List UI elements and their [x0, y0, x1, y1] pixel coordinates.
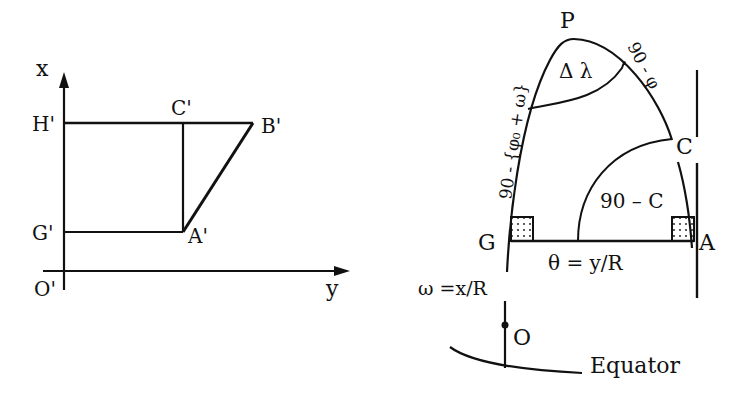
- origin-label: O': [34, 277, 56, 301]
- point-c-prime-label: C': [171, 96, 192, 120]
- right-angle-marker-a: [672, 217, 694, 241]
- angle-label: 90 – C: [600, 189, 663, 213]
- right-side-label: 90 - φ: [623, 38, 664, 92]
- plane-coordinate-figure: x y O' H' C' B' G' A': [32, 56, 350, 301]
- point-o-label: O: [513, 325, 531, 350]
- x-axis-label: x: [36, 56, 49, 81]
- theta-label: θ = y/R: [548, 251, 624, 275]
- diagram-canvas: x y O' H' C' B' G' A' P Δ λ 90 - {φ₀: [0, 0, 745, 401]
- point-b-prime-label: B': [261, 114, 281, 138]
- point-o-dot: [502, 322, 509, 329]
- equator-label: Equator: [590, 353, 681, 378]
- equator-arc: [450, 347, 582, 373]
- right-angle-marker-g: [511, 217, 533, 241]
- y-axis-label: y: [325, 276, 339, 301]
- delta-lambda-label: Δ λ: [559, 59, 593, 83]
- point-g-label: G: [478, 230, 496, 255]
- point-h-prime-label: H': [32, 112, 55, 136]
- point-a-label: A: [698, 230, 716, 255]
- left-side-label: 90 - {φ₀ + ω}: [495, 81, 531, 200]
- x-axis-arrow-icon: [59, 72, 69, 88]
- spherical-figure: P Δ λ 90 - {φ₀ + ω} 90 - φ C 90 – C G A …: [418, 8, 716, 378]
- omega-label: ω =x/R: [418, 277, 488, 299]
- point-c-label: C: [676, 134, 693, 159]
- pole-label: P: [560, 8, 575, 33]
- point-a-prime-label: A': [187, 224, 208, 248]
- y-axis-arrow-icon: [334, 266, 350, 276]
- point-g-prime-label: G': [32, 221, 53, 245]
- a-prime-b-prime-line: [183, 123, 253, 232]
